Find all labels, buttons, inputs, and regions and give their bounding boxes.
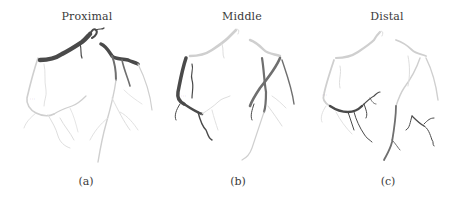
vessel-label: · · · bbox=[322, 93, 327, 97]
panel-caption: (c) bbox=[381, 175, 396, 188]
coronary-tree-middle: · · · bbox=[150, 0, 310, 199]
coronary-tree-proximal: · · · bbox=[0, 0, 160, 199]
panel-caption: (b) bbox=[230, 175, 246, 188]
panel-middle: Middle · · · (b) bbox=[150, 0, 310, 199]
panel-proximal: Proximal · · · (a) bbox=[0, 0, 160, 199]
panel-caption: (a) bbox=[78, 175, 93, 188]
vessel-label: · · · bbox=[181, 94, 186, 98]
panel-distal: Distal · · · (c) bbox=[300, 0, 467, 199]
vessel-label: · · · bbox=[30, 97, 35, 101]
coronary-tree-distal: · · · bbox=[300, 0, 467, 199]
